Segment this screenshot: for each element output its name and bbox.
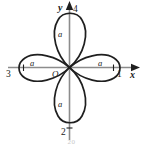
x-axis-label: x: [130, 70, 135, 80]
petal-label-right: a: [98, 59, 102, 68]
tick-label-top: 4: [73, 5, 78, 15]
figure-caption: 20: [0, 138, 143, 147]
tick-label-bottom: 2: [61, 128, 66, 138]
origin-label: O: [52, 70, 59, 79]
tick-label-right: 1: [117, 70, 122, 80]
polar-rose-figure: y x O 4 1 2 3 a a a a 20: [0, 0, 143, 147]
petal-label-left: a: [30, 59, 34, 68]
petal-label-bottom: a: [58, 100, 62, 109]
tick-label-left: 3: [6, 70, 11, 80]
y-axis-label: y: [58, 3, 62, 13]
petal-label-top: a: [58, 30, 62, 39]
